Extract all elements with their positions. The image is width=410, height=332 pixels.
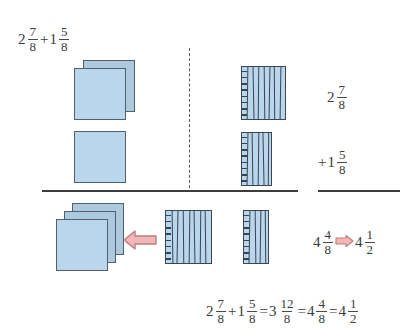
eq-fraction-5-denominator: 2 xyxy=(348,311,359,326)
title-whole-2: 1 xyxy=(49,32,58,47)
eq-fraction-5: 1 2 xyxy=(347,297,360,325)
eq-fraction-4-denominator: 8 xyxy=(316,311,327,326)
eq-whole-1: 2 xyxy=(206,304,215,319)
result-label-right-denominator: 2 xyxy=(365,242,376,257)
title-fraction-2-numerator: 5 xyxy=(59,25,70,39)
row1-whole-square-front xyxy=(74,68,126,120)
result-label-left-fraction: 4 8 xyxy=(322,228,335,256)
row2-label-numerator: 5 xyxy=(337,148,348,162)
title-expression: 2 7 8 + 1 5 8 xyxy=(18,25,70,53)
row1-strip-ticks xyxy=(242,67,248,119)
result-eighths-strip-4 xyxy=(243,210,269,264)
eq-whole-5: 4 xyxy=(338,304,347,319)
row1-label: 2 7 8 xyxy=(327,83,348,111)
eq-fraction-2: 5 8 xyxy=(246,297,259,325)
eq-equals-1: = xyxy=(258,304,268,319)
eq-fraction-3-denominator: 8 xyxy=(282,311,293,326)
row1-label-denominator: 8 xyxy=(337,97,348,112)
row2-label-denominator: 8 xyxy=(337,162,348,177)
eq-equals-3: = xyxy=(328,304,338,319)
sum-rule-right xyxy=(318,190,400,192)
title-fraction-1: 7 8 xyxy=(27,25,40,53)
eq-fraction-4: 4 8 xyxy=(315,297,328,325)
regroup-left-arrow-icon xyxy=(123,228,157,256)
row1-eighths-strip-7 xyxy=(241,66,286,120)
row2-eighths-strip-5 xyxy=(241,132,272,186)
eq-fraction-1-numerator: 7 xyxy=(216,297,227,311)
result-strip8-bands xyxy=(166,211,211,263)
row2-label-fraction: 5 8 xyxy=(336,148,349,176)
title-fraction-1-denominator: 8 xyxy=(28,39,39,54)
row1-label-fraction: 7 8 xyxy=(336,83,349,111)
result-eighths-strip-8 xyxy=(165,210,212,264)
row2-label: + 1 5 8 xyxy=(317,148,348,176)
result-strip8-ticks xyxy=(166,211,172,263)
row2-label-whole: 1 xyxy=(327,155,336,170)
result-label-right-fraction: 1 2 xyxy=(364,228,377,256)
row1-label-whole: 2 xyxy=(327,90,336,105)
result-strip4-ticks xyxy=(244,211,250,263)
title-fraction-2: 5 8 xyxy=(58,25,71,53)
bottom-equation: 2 7 8 + 1 5 8 = 3 12 8 = 4 4 8 = 4 1 2 xyxy=(206,297,359,325)
title-fraction-1-numerator: 7 xyxy=(28,25,39,39)
eq-whole-2: 1 xyxy=(237,304,246,319)
eq-whole-4: 4 xyxy=(307,304,316,319)
eq-fraction-2-numerator: 5 xyxy=(247,297,258,311)
row2-strip-ticks xyxy=(242,133,248,185)
result-whole-square-front xyxy=(56,219,108,271)
row1-label-numerator: 7 xyxy=(337,83,348,97)
eq-fraction-5-numerator: 1 xyxy=(348,297,359,311)
result-label-right-whole: 4 xyxy=(355,235,364,250)
eq-whole-3: 3 xyxy=(269,304,278,319)
eq-plus-operator: + xyxy=(227,304,237,319)
row1-strip-bands xyxy=(242,67,285,119)
result-label: 4 4 8 4 1 2 xyxy=(313,228,376,256)
vertical-dashed-divider xyxy=(189,48,190,188)
title-fraction-2-denominator: 8 xyxy=(59,39,70,54)
result-right-arrow-icon xyxy=(335,234,354,251)
eq-fraction-4-numerator: 4 xyxy=(316,297,327,311)
row2-label-plus: + xyxy=(317,155,327,170)
result-label-right-numerator: 1 xyxy=(365,228,376,242)
eq-fraction-1: 7 8 xyxy=(215,297,228,325)
eq-fraction-1-denominator: 8 xyxy=(216,311,227,326)
title-whole-1: 2 xyxy=(18,32,27,47)
row2-whole-square xyxy=(74,131,126,183)
eq-fraction-3: 12 8 xyxy=(277,297,296,325)
sum-rule-left xyxy=(42,190,298,192)
result-label-left-denominator: 8 xyxy=(323,242,334,257)
eq-equals-2: = xyxy=(296,304,306,319)
result-label-left-numerator: 4 xyxy=(323,228,334,242)
fraction-addition-figure: 2 7 8 + 1 5 8 2 xyxy=(0,0,410,332)
title-plus-operator: + xyxy=(39,32,49,47)
result-label-left-whole: 4 xyxy=(313,235,322,250)
eq-fraction-3-numerator: 12 xyxy=(278,297,295,311)
eq-fraction-2-denominator: 8 xyxy=(247,311,258,326)
